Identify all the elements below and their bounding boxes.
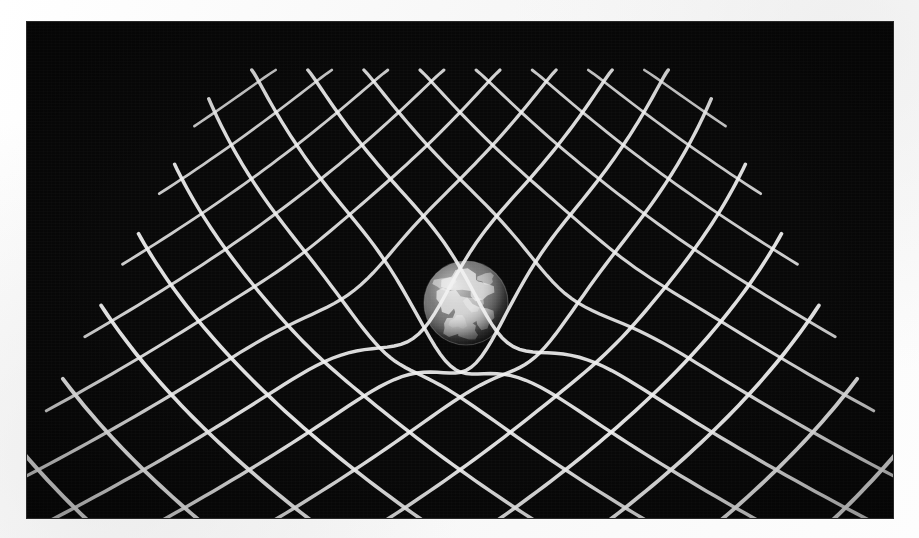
gravity-well-grid-svg bbox=[27, 22, 893, 518]
figure-title: Spacetime Curvature Diagram bbox=[0, 0, 1, 1]
spacetime-figure-frame bbox=[27, 22, 893, 518]
page-root: Spacetime Curvature Diagram bbox=[0, 0, 919, 538]
